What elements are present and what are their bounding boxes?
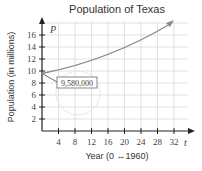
svg-text:14: 14 (27, 42, 37, 52)
x-axis-label: Year (0 ↔1960) (85, 151, 148, 161)
svg-text:12: 12 (27, 54, 36, 64)
y-axis-arrow-icon (39, 17, 45, 24)
y-axis-label: Population (in millions) (6, 32, 16, 123)
svg-text:8: 8 (73, 137, 78, 147)
svg-text:6: 6 (32, 90, 37, 100)
svg-text:16: 16 (104, 137, 114, 147)
svg-text:4: 4 (32, 102, 37, 112)
svg-text:16: 16 (27, 30, 37, 40)
svg-text:24: 24 (137, 137, 147, 147)
chart-title: Population of Texas (69, 3, 165, 15)
svg-text:28: 28 (153, 137, 163, 147)
svg-text:32: 32 (170, 137, 179, 147)
svg-text:20: 20 (120, 137, 130, 147)
x-tick-labels: 4 8 12 16 20 24 28 32 (56, 137, 178, 147)
svg-text:10: 10 (27, 66, 37, 76)
svg-text:8: 8 (32, 78, 37, 88)
x-axis-arrow-icon (188, 128, 195, 134)
population-curve (42, 24, 170, 74)
svg-text:4: 4 (56, 137, 61, 147)
x-variable: t (184, 137, 187, 148)
y-tick-labels: 2 4 6 8 10 12 14 16 (27, 30, 37, 124)
svg-text:2: 2 (32, 114, 37, 124)
y-variable: P (49, 24, 56, 35)
annotation-leader (43, 74, 57, 82)
svg-text:12: 12 (87, 137, 96, 147)
annotation-label: 9,580,000 (61, 79, 93, 88)
chart: Population of Texas (0, 0, 202, 171)
